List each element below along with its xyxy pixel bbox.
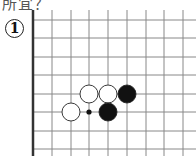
point-marker-dot [86,109,91,114]
white-stone [62,103,80,121]
go-board-diagram [0,0,196,156]
black-stone [118,85,136,103]
white-stone [99,85,117,103]
white-stone [80,85,98,103]
black-stone [99,103,117,121]
